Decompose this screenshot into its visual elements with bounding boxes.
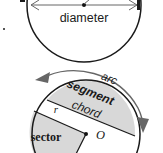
arc-start-arrowhead (35, 72, 50, 83)
top-diameter-diagram: diameter (3, 0, 141, 62)
bottom-center-dot (84, 132, 88, 136)
top-center-leader (84, 0, 95, 4)
left-edge-speck (3, 28, 5, 30)
top-left-crop-mark (20, 0, 25, 2)
sector-label: sector (31, 130, 62, 144)
bottom-parts-diagram: arc segment chord sector r O (30, 70, 149, 153)
center-label: O (96, 128, 105, 142)
top-right-crop-mark (137, 0, 140, 10)
circle-geometry-figure: diameter (0, 0, 163, 153)
diameter-label: diameter (60, 11, 109, 25)
top-circle-outline (27, 0, 141, 62)
radius-label: r (54, 103, 59, 115)
figure-canvas: diameter (0, 0, 163, 153)
